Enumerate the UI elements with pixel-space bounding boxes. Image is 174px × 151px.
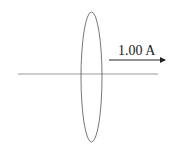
diagram-canvas: 1.00 A xyxy=(0,0,174,151)
current-label: 1.00 A xyxy=(118,43,156,58)
current-loop xyxy=(81,12,102,142)
